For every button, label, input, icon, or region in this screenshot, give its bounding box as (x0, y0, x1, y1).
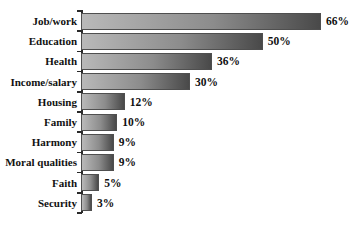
bar-zone: 9% (81, 132, 136, 152)
bar-zone: 10% (81, 112, 145, 132)
category-label: Job/work (0, 15, 81, 27)
bar (81, 13, 321, 30)
axis-tick (77, 172, 82, 174)
value-label: 36% (217, 55, 240, 67)
axis-tick (77, 51, 82, 53)
axis-tick (77, 212, 82, 214)
bar-zone: 66% (81, 11, 349, 31)
axis-tick (77, 192, 82, 194)
bar (81, 33, 263, 50)
bar-zone: 12% (81, 92, 153, 112)
category-label: Moral qualities (0, 156, 81, 168)
axis-tick (77, 152, 82, 154)
value-label: 9% (119, 136, 136, 148)
category-label: Education (0, 35, 81, 47)
category-label: Health (0, 55, 81, 67)
chart-row: Security3% (0, 193, 351, 213)
bar-zone: 3% (81, 193, 114, 213)
bar (81, 93, 125, 110)
value-label: 50% (268, 35, 291, 47)
category-label: Family (0, 116, 81, 128)
category-label: Security (0, 197, 81, 209)
chart-row: Health36% (0, 51, 351, 71)
chart-rows: Job/work66%Education50%Health36%Income/s… (0, 11, 351, 213)
category-label: Housing (0, 96, 81, 108)
bar-zone: 36% (81, 51, 240, 71)
chart-row: Housing12% (0, 92, 351, 112)
bar (81, 154, 114, 171)
chart-row: Faith5% (0, 173, 351, 193)
axis-tick (77, 30, 82, 32)
chart-row: Harmony9% (0, 132, 351, 152)
value-label: 3% (97, 197, 114, 209)
axis-tick (77, 91, 82, 93)
chart-row: Family10% (0, 112, 351, 132)
chart-row: Education50% (0, 31, 351, 51)
category-label: Income/salary (0, 76, 81, 88)
chart-row: Income/salary30% (0, 72, 351, 92)
chart-row: Moral qualities9% (0, 152, 351, 172)
category-label: Faith (0, 177, 81, 189)
axis-tick (77, 111, 82, 113)
chart-row: Job/work66% (0, 11, 351, 31)
value-label: 5% (104, 177, 121, 189)
value-label: 10% (122, 116, 145, 128)
bar-zone: 30% (81, 72, 218, 92)
category-label: Harmony (0, 136, 81, 148)
bar (81, 174, 99, 191)
bar (81, 53, 212, 70)
bar-chart: Job/work66%Education50%Health36%Income/s… (0, 0, 351, 225)
bar (81, 114, 117, 131)
bar (81, 134, 114, 151)
value-label: 66% (326, 15, 349, 27)
axis-tick (77, 71, 82, 73)
bar-zone: 9% (81, 152, 136, 172)
axis-tick (77, 10, 82, 12)
bar (81, 73, 190, 90)
value-label: 9% (119, 156, 136, 168)
value-label: 30% (195, 76, 218, 88)
bar (81, 194, 92, 211)
value-label: 12% (130, 96, 153, 108)
bar-zone: 5% (81, 173, 121, 193)
axis-tick (77, 131, 82, 133)
bar-zone: 50% (81, 31, 291, 51)
